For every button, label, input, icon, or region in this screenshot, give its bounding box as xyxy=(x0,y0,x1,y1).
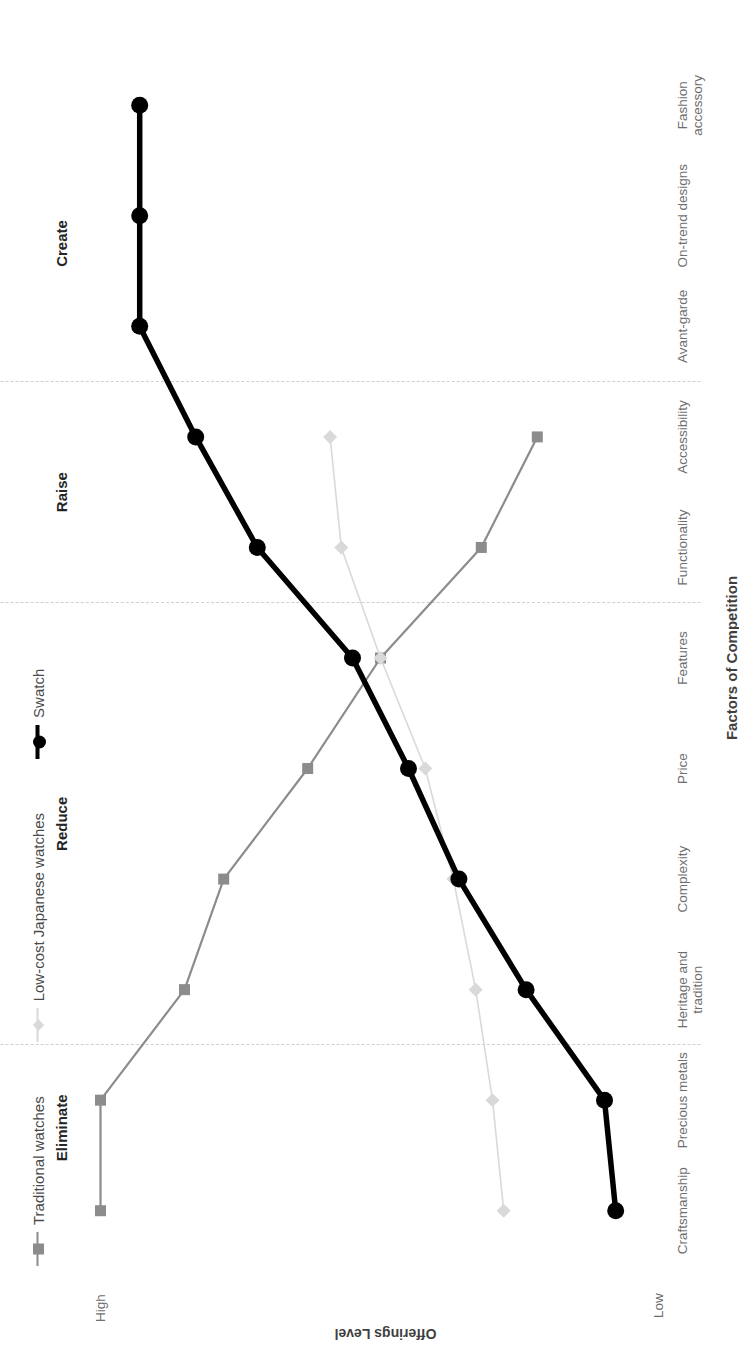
x-tick-9: On-trend designs xyxy=(674,156,689,276)
legend-marker-circle-icon xyxy=(35,725,39,759)
data-point-1-7 xyxy=(323,430,337,444)
x-tick-5: Features xyxy=(674,598,689,718)
data-point-2-8 xyxy=(131,318,148,335)
data-point-0-7 xyxy=(531,431,542,442)
plot-area xyxy=(100,50,660,1266)
x-tick-8: Avant-garde xyxy=(674,266,689,386)
y-axis-title: Offerings Level xyxy=(334,1326,436,1342)
data-point-2-0 xyxy=(607,1202,624,1219)
data-point-0-3 xyxy=(218,874,229,885)
data-point-1-2 xyxy=(468,983,482,997)
data-point-1-1 xyxy=(485,1093,499,1107)
legend-item-0[interactable]: Traditional watches xyxy=(29,1096,46,1266)
series-layer xyxy=(100,50,660,1266)
x-tick-10: Fashion accessory xyxy=(674,45,704,165)
data-point-0-4 xyxy=(302,763,313,774)
data-point-0-1 xyxy=(95,1095,106,1106)
band-label-reduce: Reduce xyxy=(52,734,69,914)
legend-label-0: Traditional watches xyxy=(29,1096,46,1225)
data-point-0-2 xyxy=(179,984,190,995)
data-point-1-0 xyxy=(496,1204,510,1218)
x-tick-7: Accessibility xyxy=(674,377,689,497)
data-point-2-4 xyxy=(400,760,417,777)
y-axis-tick-high: High xyxy=(92,1294,107,1322)
data-point-2-7 xyxy=(187,428,204,445)
x-tick-1: Precious metals xyxy=(674,1040,689,1160)
data-point-1-4 xyxy=(418,762,432,776)
chart-legend: Traditional watchesLow-cost Japanese wat… xyxy=(22,50,52,1266)
band-label-create: Create xyxy=(52,153,69,333)
band-label-raise: Raise xyxy=(52,402,69,582)
legend-marker-diamond-icon xyxy=(36,1008,38,1042)
data-point-0-6 xyxy=(475,542,486,553)
x-axis-title: Factors of Competition xyxy=(722,50,739,1266)
x-tick-3: Complexity xyxy=(674,819,689,939)
series-line-0 xyxy=(100,437,537,1211)
legend-label-1: Low-cost Japanese watches xyxy=(29,813,46,1001)
x-tick-4: Price xyxy=(674,709,689,829)
legend-marker-square-icon xyxy=(36,1232,38,1266)
data-point-1-6 xyxy=(334,540,348,554)
x-tick-6: Functionality xyxy=(674,487,689,607)
legend-label-2: Swatch xyxy=(29,669,46,718)
data-point-2-10 xyxy=(131,97,148,114)
data-point-2-9 xyxy=(131,207,148,224)
legend-item-2[interactable]: Swatch xyxy=(29,669,46,759)
x-tick-0: Craftsmanship xyxy=(674,1151,689,1271)
band-label-eliminate: Eliminate xyxy=(52,1038,69,1218)
legend-item-1[interactable]: Low-cost Japanese watches xyxy=(29,813,46,1042)
data-point-0-0 xyxy=(95,1205,106,1216)
y-axis-tick-low: Low xyxy=(650,1293,665,1318)
x-tick-2: Heritage and tradition xyxy=(674,930,704,1050)
